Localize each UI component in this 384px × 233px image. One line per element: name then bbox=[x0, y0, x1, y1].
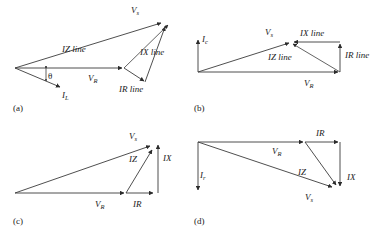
panel-a-label-ir: IR line bbox=[118, 84, 143, 94]
panel-a-theta-dot-bottom bbox=[45, 79, 47, 81]
panel-d-tag: (d) bbox=[194, 216, 205, 226]
panel-a-tag: (a) bbox=[13, 103, 23, 113]
panel-b-label-ir: IR line bbox=[344, 50, 369, 60]
panel-a-label-ix: IX line bbox=[139, 47, 164, 57]
panel-b-label-ix: IX line bbox=[299, 28, 324, 38]
panel-a-theta-dot-top bbox=[45, 66, 47, 68]
figure-canvas: Vs IZ line IX line IR line VR IL θ (a) V… bbox=[0, 0, 384, 233]
panel-c-label-iz: IZ bbox=[128, 154, 138, 164]
panel-d-label-iz: IZ bbox=[297, 167, 307, 177]
panel-b-tag: (b) bbox=[194, 103, 205, 113]
panel-c-label-ir: IR bbox=[132, 199, 142, 209]
panel-b-label-iz: IZ line bbox=[267, 52, 292, 62]
figure-background bbox=[0, 0, 384, 233]
phasor-diagram-figure: Vs IZ line IX line IR line VR IL θ (a) V… bbox=[0, 0, 384, 233]
panel-d-label-ir-top: IR bbox=[315, 128, 325, 138]
panel-c-label-ix: IX bbox=[162, 153, 172, 163]
panel-a-label-iz: IZ line bbox=[61, 44, 86, 54]
panel-d-label-ix: IX bbox=[346, 172, 356, 182]
panel-c-tag: (c) bbox=[13, 216, 23, 226]
panel-a-label-theta: θ bbox=[48, 71, 52, 81]
